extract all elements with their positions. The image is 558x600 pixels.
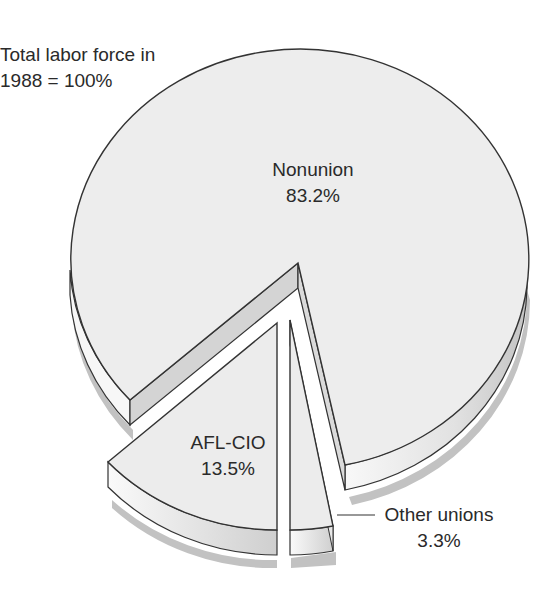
label-other-unions: Other unions 3.3% <box>378 502 500 554</box>
label-nonunion-value: 83.2% <box>258 183 368 209</box>
label-nonunion: Nonunion 83.2% <box>258 157 368 209</box>
chart-title-line1: Total labor force in <box>0 42 155 68</box>
chart-title-line2: 1988 = 100% <box>0 68 155 94</box>
label-afl-cio-value: 13.5% <box>183 456 273 482</box>
label-other-unions-value: 3.3% <box>378 528 500 554</box>
chart-title: Total labor force in 1988 = 100% <box>0 42 155 94</box>
label-afl-cio: AFL-CIO 13.5% <box>183 430 273 482</box>
label-afl-cio-name: AFL-CIO <box>183 430 273 456</box>
label-other-unions-name: Other unions <box>378 502 500 528</box>
label-nonunion-name: Nonunion <box>258 157 368 183</box>
